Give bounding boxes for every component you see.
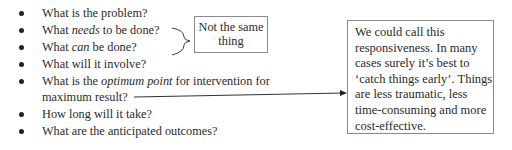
callout-responsiveness: We could call this responsiveness. In ma… <box>347 20 494 134</box>
callout-line: responsiveness. In many <box>355 41 493 57</box>
callout-line: are less traumatic, less <box>355 87 493 103</box>
callout-line: time-consuming and more <box>355 103 493 119</box>
callout-line: thing <box>195 34 267 48</box>
arrow-line <box>134 93 344 97</box>
brace-icon <box>172 28 190 55</box>
callout-line: We could call this <box>355 25 493 41</box>
callout-line: cases surely it’s best to <box>355 56 493 72</box>
callout-line: ‘catch things early’. Things <box>355 72 493 88</box>
arrowhead-icon <box>340 90 347 96</box>
callout-line: Not the same <box>195 20 267 34</box>
callout-not-same-thing: Not the same thing <box>194 16 268 53</box>
callout-line: cost-effective. <box>355 119 493 135</box>
